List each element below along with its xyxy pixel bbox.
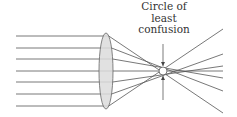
light-ray bbox=[16, 29, 223, 106]
light-ray bbox=[16, 48, 223, 91]
light-ray bbox=[16, 66, 223, 82]
light-ray bbox=[16, 59, 223, 78]
label-line-1: Circle of bbox=[133, 1, 195, 13]
bottom-arrow-head-icon bbox=[161, 76, 165, 80]
top-arrow-head-icon bbox=[161, 62, 165, 66]
convex-lens bbox=[99, 33, 113, 109]
spherical-aberration-diagram bbox=[0, 0, 237, 117]
circle-of-least-confusion-marker bbox=[159, 67, 167, 75]
circle-of-least-confusion-label: Circle of least confusion bbox=[133, 1, 195, 36]
label-line-3: confusion bbox=[133, 24, 195, 36]
light-ray bbox=[16, 36, 223, 113]
light-rays bbox=[16, 29, 223, 113]
